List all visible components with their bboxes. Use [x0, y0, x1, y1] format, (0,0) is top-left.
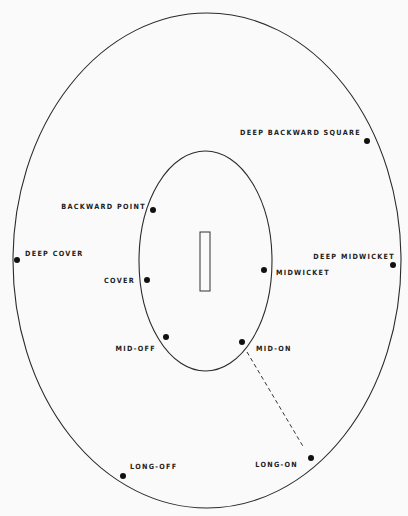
- fielder-label: COVER: [104, 276, 135, 285]
- fielder-mid-on: MID-ON: [239, 339, 292, 353]
- fielder-positions: DEEP BACKWARD SQUAREBACKWARD POINTDEEP C…: [14, 128, 396, 479]
- fielder-dot-icon: [390, 262, 396, 268]
- fielder-label: DEEP MIDWICKET: [313, 252, 395, 261]
- cricket-field-diagram: DEEP BACKWARD SQUAREBACKWARD POINTDEEP C…: [0, 0, 408, 516]
- fielder-long-on: LONG-ON: [255, 455, 314, 469]
- fielder-dot-icon: [239, 339, 245, 345]
- fielder-label: LONG-ON: [255, 460, 298, 469]
- fielder-label: DEEP COVER: [25, 249, 84, 258]
- fielder-dot-icon: [261, 267, 267, 273]
- pitch: [200, 232, 210, 291]
- fielder-deep-backward-square: DEEP BACKWARD SQUARE: [240, 128, 370, 144]
- fielder-label: MID-OFF: [116, 344, 156, 353]
- fielder-backward-point: BACKWARD POINT: [61, 202, 156, 213]
- fielder-dot-icon: [14, 257, 20, 263]
- fielder-deep-midwicket: DEEP MIDWICKET: [313, 252, 396, 268]
- fielder-long-off: LONG-OFF: [120, 462, 178, 479]
- fielder-dot-icon: [150, 207, 156, 213]
- fielder-label: MID-ON: [256, 344, 292, 353]
- dashed-connector-mid-on-to-long-on: [247, 352, 304, 448]
- fielder-label: LONG-OFF: [130, 462, 178, 471]
- fielder-label: MIDWICKET: [276, 268, 330, 277]
- fielder-dot-icon: [364, 138, 370, 144]
- fielder-label: DEEP BACKWARD SQUARE: [240, 128, 361, 137]
- fielder-dot-icon: [163, 334, 169, 340]
- fielder-dot-icon: [308, 455, 314, 461]
- inner-circle: [139, 151, 272, 371]
- fielder-deep-cover: DEEP COVER: [14, 249, 84, 263]
- fielder-dot-icon: [120, 473, 126, 479]
- fielder-label: BACKWARD POINT: [61, 202, 146, 211]
- fielder-dot-icon: [144, 277, 150, 283]
- fielder-cover: COVER: [104, 276, 150, 285]
